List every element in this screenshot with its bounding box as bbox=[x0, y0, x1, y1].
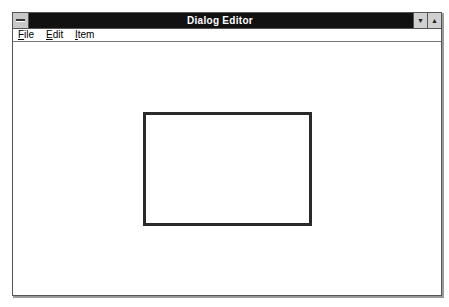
menu-item[interactable]: Item bbox=[75, 29, 94, 41]
menu-file-label: ile bbox=[24, 29, 34, 40]
editor-canvas[interactable] bbox=[13, 42, 441, 295]
menu-edit-mnemonic: E bbox=[46, 29, 53, 40]
title-bar[interactable]: Dialog Editor ▼ ▲ bbox=[13, 13, 441, 29]
menu-bar: File Edit Item bbox=[13, 29, 441, 42]
menu-item-label: tem bbox=[78, 29, 95, 40]
minimize-icon: ▼ bbox=[417, 17, 424, 24]
maximize-button[interactable]: ▲ bbox=[427, 13, 441, 28]
dialog-frame[interactable] bbox=[143, 112, 312, 226]
minimize-button[interactable]: ▼ bbox=[413, 13, 427, 28]
dialog-editor-window: Dialog Editor ▼ ▲ File Edit Item bbox=[12, 12, 442, 296]
menu-edit-label: dit bbox=[53, 29, 64, 40]
menu-file[interactable]: File bbox=[18, 29, 34, 41]
window-title: Dialog Editor bbox=[29, 13, 411, 28]
system-menu-icon bbox=[16, 19, 25, 21]
menu-edit[interactable]: Edit bbox=[46, 29, 63, 41]
maximize-icon: ▲ bbox=[431, 17, 438, 24]
system-menu-button[interactable] bbox=[13, 13, 29, 28]
